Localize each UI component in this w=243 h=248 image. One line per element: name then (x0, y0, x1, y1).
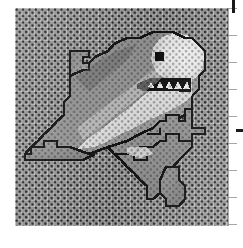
right-registration-tick (236, 129, 243, 132)
top-registration-tick (232, 0, 235, 13)
screenshot-root (0, 0, 243, 248)
shark-eye (155, 52, 164, 61)
aida-cloth-panel (15, 8, 228, 226)
shark-motif (15, 8, 228, 226)
right-margin-ticks (228, 8, 237, 226)
shark-tail-fin (160, 167, 185, 206)
